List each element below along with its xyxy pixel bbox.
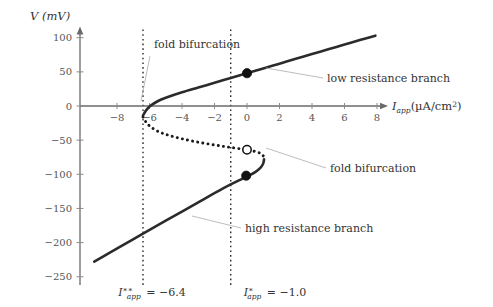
x-tick-label: −4	[175, 112, 190, 123]
y-tick-label: 100	[53, 32, 72, 43]
bifurcation-diagram: −8−6−4−202468 100500−50−100−150−200−250 …	[0, 0, 493, 307]
x-tick-label: 2	[276, 112, 282, 123]
annotation-low-branch: low resistance branch	[327, 72, 450, 85]
y-tick-label: 0	[66, 101, 72, 112]
parameter-I-star: I∗app = −1.0	[243, 285, 306, 301]
x-tick-label: −8	[110, 112, 125, 123]
parameter-equals: = −6.4	[143, 286, 186, 299]
y-tick-label: −100	[45, 169, 72, 180]
saddle-middle	[243, 146, 251, 154]
parameter-subscript: app	[127, 292, 141, 301]
stable-node-lower	[242, 171, 251, 180]
y-axis-title: V (mV)	[30, 9, 70, 23]
y-tick-label: −150	[45, 203, 72, 214]
x-tick-label: 6	[341, 112, 347, 123]
x-axis-title-units-close: )	[457, 99, 462, 113]
parameter-subscript: app	[247, 292, 261, 301]
x-axis-title-units: (µA/cm	[411, 99, 453, 113]
x-axis-title-subscript: app	[397, 106, 411, 115]
stable-node-upper	[242, 69, 251, 78]
y-tick-label: −250	[45, 271, 72, 282]
parameter-equals: = −1.0	[263, 286, 306, 299]
annotation-high-branch: high resistance branch	[245, 222, 373, 235]
y-tick-label: −50	[51, 135, 72, 146]
y-tick-label: 50	[59, 66, 72, 77]
x-tick-label: 4	[309, 112, 315, 123]
parameter-I-double-star: I∗∗app = −6.4	[117, 285, 186, 301]
x-tick-label: 0	[244, 112, 250, 123]
x-tick-label: 8	[374, 112, 380, 123]
annotation-fold-lower: fold bifurcation	[330, 162, 416, 175]
annotation-fold-upper: fold bifurcation	[154, 38, 240, 51]
y-tick-label: −200	[45, 237, 72, 248]
x-tick-label: −2	[207, 112, 222, 123]
